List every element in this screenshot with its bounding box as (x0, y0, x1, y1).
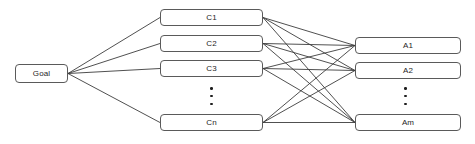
ellipsis-dot (210, 87, 213, 90)
vertical-ellipsis-icon-alternatives (404, 87, 407, 105)
ellipsis-dot (404, 87, 407, 90)
node-goal[interactable]: Goal (15, 64, 68, 83)
node-label: C3 (206, 65, 216, 73)
vertical-ellipsis-icon-criteria (210, 87, 213, 105)
node-c2[interactable]: C2 (160, 35, 263, 52)
node-label: Am (402, 119, 414, 127)
edge-c1-to-a1 (263, 18, 355, 46)
node-am[interactable]: Am (355, 114, 461, 131)
node-c1[interactable]: C1 (160, 9, 263, 26)
node-a2[interactable]: A2 (355, 62, 461, 79)
node-a1[interactable]: A1 (355, 37, 461, 54)
ellipsis-dot (404, 103, 407, 106)
node-label: C2 (206, 40, 216, 48)
edge-goal-to-c1 (68, 18, 160, 74)
edge-goal-to-cn (68, 74, 160, 123)
node-cn[interactable]: Cn (160, 114, 263, 131)
ellipsis-dot (210, 95, 213, 98)
hierarchy-diagram: GoalC1C2C3CnA1A2Am (0, 0, 475, 144)
node-label: A2 (403, 67, 413, 75)
node-label: Cn (206, 119, 216, 127)
ellipsis-dot (404, 95, 407, 98)
node-c3[interactable]: C3 (160, 60, 263, 77)
node-label: Goal (33, 70, 50, 78)
node-label: C1 (206, 14, 216, 22)
ellipsis-dot (210, 103, 213, 106)
node-label: A1 (403, 42, 413, 50)
